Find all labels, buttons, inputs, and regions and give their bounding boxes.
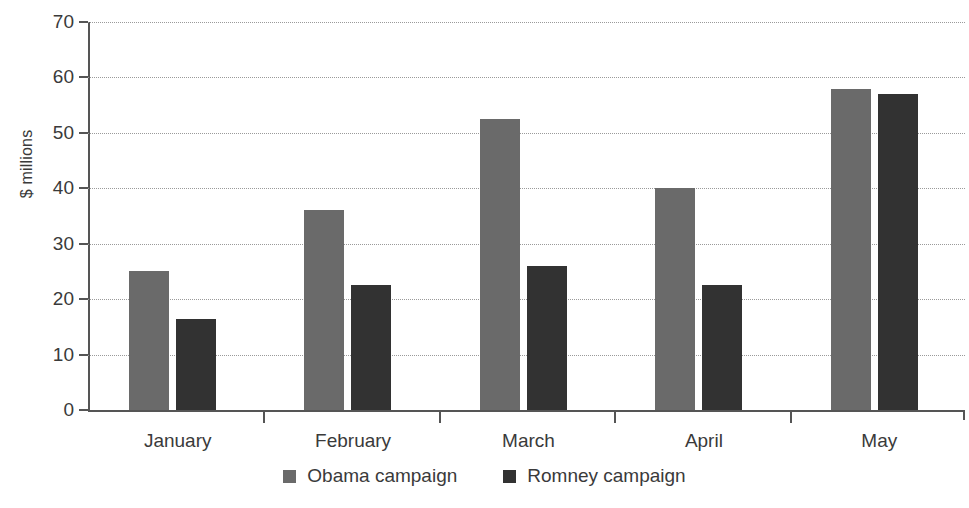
bar-march-romney <box>527 266 567 410</box>
bar-april-obama <box>655 188 695 410</box>
y-tick-label: 20 <box>14 289 74 308</box>
x-tick-label: May <box>861 430 897 452</box>
x-tick-label: March <box>502 430 555 452</box>
y-tick-mark <box>79 243 88 245</box>
chart-legend: Obama campaignRomney campaign <box>0 465 969 487</box>
bar-january-obama <box>129 271 169 410</box>
bar-february-obama <box>304 210 344 410</box>
x-tick-label: April <box>685 430 723 452</box>
y-axis-line <box>88 22 90 411</box>
y-tick-label: 40 <box>14 178 74 197</box>
plot-area <box>88 22 965 410</box>
legend-label: Romney campaign <box>527 465 685 487</box>
y-tick-mark <box>79 409 88 411</box>
bar-may-romney <box>878 94 918 410</box>
y-tick-mark <box>79 187 88 189</box>
legend-swatch-icon <box>283 470 296 483</box>
y-tick-label: 70 <box>14 12 74 31</box>
bar-april-romney <box>702 285 742 410</box>
y-tick-mark <box>79 76 88 78</box>
y-tick-label: 60 <box>14 67 74 86</box>
legend-label: Obama campaign <box>307 465 457 487</box>
legend-swatch-icon <box>503 470 516 483</box>
bar-march-obama <box>480 119 520 410</box>
y-tick-label: 50 <box>14 123 74 142</box>
bar-may-obama <box>831 89 871 410</box>
y-tick-label: 10 <box>14 345 74 364</box>
bar-january-romney <box>176 319 216 410</box>
bar-february-romney <box>351 285 391 410</box>
y-tick-mark <box>79 132 88 134</box>
y-tick-mark <box>79 354 88 356</box>
x-tick-mark <box>614 412 616 423</box>
legend-item-obama: Obama campaign <box>283 465 457 487</box>
gridline <box>88 22 965 24</box>
y-tick-mark <box>79 21 88 23</box>
x-tick-label: February <box>315 430 391 452</box>
x-axis-line <box>88 410 965 412</box>
y-tick-label: 30 <box>14 234 74 253</box>
legend-item-romney: Romney campaign <box>503 465 685 487</box>
x-tick-mark <box>790 412 792 423</box>
y-tick-mark <box>79 298 88 300</box>
x-axis-right-cap <box>963 410 965 420</box>
y-axis-title: $ millions <box>18 99 36 229</box>
gridline <box>88 77 965 79</box>
y-tick-label: 0 <box>14 400 74 419</box>
x-tick-label: January <box>144 430 212 452</box>
bar-chart: $ millions 010203040506070 JanuaryFebrua… <box>0 0 969 508</box>
x-tick-mark <box>439 412 441 423</box>
x-tick-mark <box>263 412 265 423</box>
